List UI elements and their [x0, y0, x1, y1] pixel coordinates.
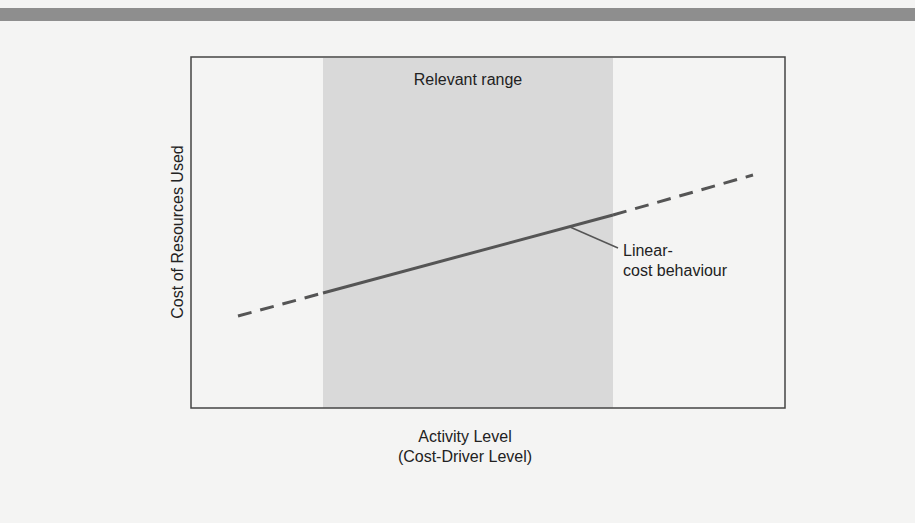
- cost-line-dashed-right: [613, 175, 753, 215]
- relevant-range-label: Relevant range: [323, 70, 613, 90]
- annotation-line-2: cost behaviour: [623, 261, 727, 281]
- linear-cost-annotation: Linear- cost behaviour: [623, 241, 727, 281]
- x-axis-label-line-2: (Cost-Driver Level): [340, 447, 590, 467]
- relevant-range-shading: [323, 58, 613, 408]
- x-axis-label-line-1: Activity Level: [340, 427, 590, 447]
- cost-line-dashed-left: [238, 293, 323, 316]
- annotation-line-1: Linear-: [623, 241, 727, 261]
- x-axis-label: Activity Level (Cost-Driver Level): [340, 427, 590, 467]
- y-axis-label: Cost of Resources Used: [169, 145, 187, 318]
